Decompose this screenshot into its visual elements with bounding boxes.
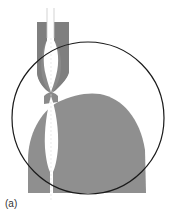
diagram-figure: (a) xyxy=(0,0,173,220)
needle-channel xyxy=(47,8,54,38)
diagram-svg xyxy=(0,0,173,220)
figure-label: (a) xyxy=(5,198,17,209)
